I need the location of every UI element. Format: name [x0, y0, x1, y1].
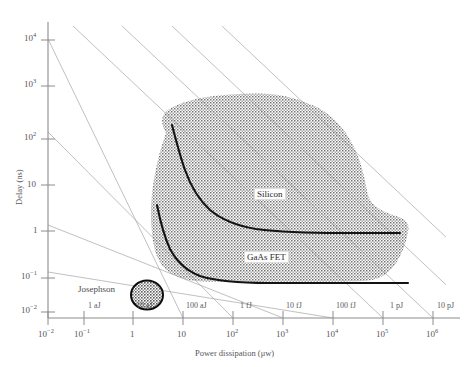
- region-label-josephson: Josephson: [78, 285, 115, 294]
- isoline-label-100aJ: 100 aJ: [186, 302, 207, 310]
- y-tick-label-1e3: 103: [24, 80, 36, 89]
- x-tick-label-1e3: 103: [276, 330, 288, 339]
- isoline-label-1pJ: 1 pJ: [390, 302, 403, 310]
- power-delay-chart: 104 103 102 10 1 10−1 10−2 10−2 10−1 1 1…: [0, 0, 468, 367]
- isoline-label-1aJ: 1 aJ: [88, 302, 101, 310]
- x-axis-title: Power dissipation (μw): [195, 348, 274, 358]
- x-tick-label-10: 10: [177, 330, 186, 339]
- y-tick-label-1e-2: 10−2: [21, 306, 37, 315]
- chart-canvas: [0, 0, 468, 367]
- isoline-label-1fJ: 1 fJ: [240, 302, 252, 310]
- isoline-label-10pJ: 10 pJ: [437, 302, 454, 310]
- region-label-silicon: Silicon: [254, 188, 286, 200]
- y-tick-label-1: 1: [33, 226, 38, 235]
- x-tick-label-1e2: 102: [226, 330, 238, 339]
- y-axis-title: Delay (ns): [14, 169, 24, 205]
- x-tick-label-1: 1: [130, 330, 135, 339]
- region-label-gaas-fet: GaAs FET: [244, 251, 289, 263]
- x-tick-label-1e6: 106: [426, 330, 438, 339]
- y-tick-label-1e-1: 10−1: [21, 272, 37, 281]
- y-tick-label-1e4: 104: [24, 34, 36, 43]
- y-tick-label-1e2: 102: [24, 133, 36, 142]
- isoline-label-100fJ: 100 fJ: [336, 302, 356, 310]
- isoline-label-10aJ: 10 aJ: [136, 302, 153, 310]
- x-tick-label-1e4: 104: [326, 330, 338, 339]
- x-tick-label-1e-1: 10−1: [74, 330, 90, 339]
- x-tick-label-1e5: 105: [376, 330, 388, 339]
- y-tick-label-10: 10: [27, 180, 36, 189]
- x-tick-label-1e-2: 10−2: [38, 330, 54, 339]
- isoline-label-10fJ: 10 fJ: [286, 302, 302, 310]
